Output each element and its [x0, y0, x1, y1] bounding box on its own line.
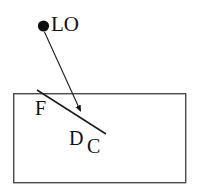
- label-lo: LO: [51, 14, 79, 35]
- label-d: D: [69, 128, 83, 148]
- figure-canvas: [0, 0, 197, 189]
- geometry-figure: LO F D C: [0, 0, 197, 189]
- point-lo-marker: [38, 20, 49, 31]
- label-c: C: [87, 136, 100, 156]
- label-f: F: [35, 98, 46, 118]
